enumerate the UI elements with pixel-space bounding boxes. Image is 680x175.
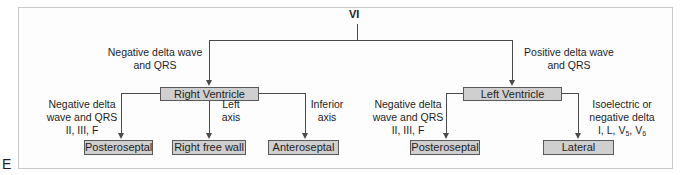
lv-connector bbox=[512, 40, 513, 81]
node-anteroseptal: Anteroseptal bbox=[268, 140, 339, 155]
root-node-vi: VI bbox=[349, 8, 359, 20]
rv-child2-edge-label: Left axis bbox=[211, 98, 251, 124]
rv-child1-edge-label: Negative delta wave and QRS II, III, F bbox=[44, 98, 120, 137]
node-posteroseptal-lv: Posteroseptal bbox=[410, 140, 480, 155]
rv-child3-arrowhead-icon bbox=[302, 133, 308, 139]
rv-branch-horizontal bbox=[121, 93, 160, 94]
lv-edge-label-line1: Positive delta wave bbox=[514, 46, 624, 59]
lead-subscript: 6 bbox=[642, 130, 646, 137]
lead-text: I, L, V bbox=[598, 124, 625, 136]
rv-edge-label-line1: Negative delta wave bbox=[100, 46, 210, 59]
label-line: II, III, F bbox=[44, 124, 120, 137]
label-line: wave and QRS bbox=[44, 111, 120, 124]
label-line: axis bbox=[307, 111, 347, 124]
lv-edge-label: Positive delta wave and QRS bbox=[514, 46, 624, 72]
label-line: wave and QRS bbox=[370, 111, 446, 124]
label-line-leads: I, L, V5, V6 bbox=[582, 124, 662, 140]
rv-edge-label: Negative delta wave and QRS bbox=[100, 46, 210, 72]
rv-child3-connector bbox=[305, 93, 306, 133]
node-posteroseptal-rv: Posteroseptal bbox=[84, 140, 153, 155]
lv-child1-connector bbox=[446, 93, 447, 133]
rv-child2-arrowhead-icon bbox=[206, 133, 212, 139]
root-stem bbox=[357, 24, 358, 40]
label-line: II, III, F bbox=[370, 124, 446, 137]
label-line: Negative delta bbox=[44, 98, 120, 111]
label-line: Inferior bbox=[307, 98, 347, 111]
lv-child2-arrowhead-icon bbox=[575, 133, 581, 139]
lv-child1-edge-label: Negative delta wave and QRS II, III, F bbox=[370, 98, 446, 137]
rv-child1-connector bbox=[121, 93, 122, 133]
lv-child2-edge-label: Isoelectric or negative delta I, L, V5, … bbox=[582, 98, 662, 140]
lv-edge-label-line2: and QRS bbox=[514, 59, 624, 72]
lv-branch-horizontal-left bbox=[446, 93, 463, 94]
lv-branch-horizontal-right bbox=[562, 93, 578, 94]
label-line: Negative delta bbox=[370, 98, 446, 111]
root-horizontal bbox=[209, 40, 513, 41]
rv-child3-edge-label: Inferior axis bbox=[307, 98, 347, 124]
node-right-free-wall: Right free wall bbox=[172, 140, 246, 155]
label-line: axis bbox=[211, 111, 251, 124]
rv-child2-connector bbox=[209, 101, 210, 133]
panel-label: E bbox=[2, 156, 11, 172]
lv-child2-connector bbox=[578, 93, 579, 133]
rv-branch-horizontal-right bbox=[259, 93, 305, 94]
label-line: Left bbox=[211, 98, 251, 111]
label-line: negative delta bbox=[582, 111, 662, 124]
node-lateral: Lateral bbox=[543, 140, 614, 155]
node-left-ventricle: Left Ventricle bbox=[463, 87, 562, 101]
label-line: Isoelectric or bbox=[582, 98, 662, 111]
lead-text: , V bbox=[629, 124, 642, 136]
lv-arrowhead-icon bbox=[509, 80, 515, 86]
rv-arrowhead-icon bbox=[206, 80, 212, 86]
rv-edge-label-line2: and QRS bbox=[100, 59, 210, 72]
